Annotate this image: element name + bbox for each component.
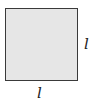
side-length-label-right: l xyxy=(84,37,89,52)
side-length-label-bottom: l xyxy=(37,86,42,101)
square-shape xyxy=(5,8,78,81)
